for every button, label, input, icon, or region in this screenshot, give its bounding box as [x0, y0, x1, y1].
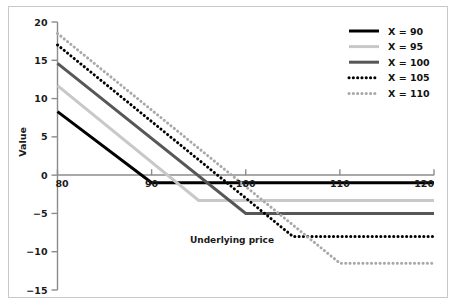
x-tick-label: 120: [414, 178, 434, 189]
x-axis-ticks: [58, 169, 435, 175]
legend-label-110: X = 110: [388, 88, 430, 99]
y-tick-label: −5: [33, 208, 48, 219]
series-line-100: [58, 63, 435, 213]
x-tick-label: 80: [56, 178, 70, 189]
y-axis-title: Value: [17, 127, 28, 157]
y-axis-ticks: [52, 22, 58, 290]
x-tick-label: 110: [330, 178, 350, 189]
y-tick-label: 5: [41, 131, 48, 142]
y-tick-label: 0: [41, 170, 48, 181]
chart-legend: X = 90X = 95X = 100X = 105X = 110: [349, 26, 430, 99]
data-series-group: [58, 33, 435, 263]
x-tick-label: 90: [145, 178, 159, 189]
y-tick-label: 20: [34, 17, 48, 28]
y-tick-label: 15: [34, 55, 47, 66]
x-axis-title: Underlying price: [190, 235, 274, 245]
series-line-105: [58, 45, 435, 236]
legend-label-90: X = 90: [388, 26, 424, 37]
y-axis-tick-labels: 20151050−5−10−15: [26, 17, 48, 296]
y-tick-label: −10: [26, 246, 48, 257]
y-tick-label: 10: [34, 93, 48, 104]
legend-label-95: X = 95: [388, 41, 423, 52]
legend-label-105: X = 105: [388, 72, 430, 83]
legend-label-100: X = 100: [388, 57, 430, 68]
chart-figure: 20151050−5−10−15 8090100110120 Value Und…: [0, 0, 456, 307]
y-tick-label: −15: [26, 285, 47, 296]
chart-plot-area: 20151050−5−10−15 8090100110120 Value Und…: [0, 0, 456, 307]
x-tick-label: 100: [236, 178, 256, 189]
series-line-110: [58, 33, 435, 263]
